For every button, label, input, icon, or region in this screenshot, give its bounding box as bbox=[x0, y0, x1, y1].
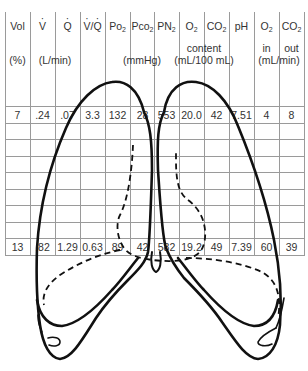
right-lung-outline bbox=[158, 82, 281, 359]
lung-outline-icon bbox=[0, 0, 308, 371]
left-lung-outline bbox=[37, 82, 152, 359]
lung-vq-diagram: Vol V Q V/Q Po2 Pco2 PN2 O2 CO2 pH O2 CO… bbox=[0, 0, 308, 371]
